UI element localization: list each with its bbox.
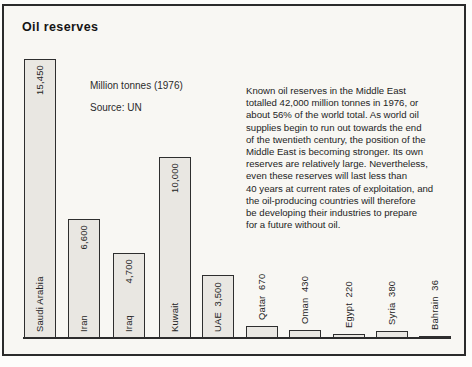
chart-title: Oil reserves bbox=[22, 20, 98, 34]
bar-value-label: 15,450 bbox=[35, 65, 45, 95]
bar-category-label: Iran bbox=[79, 315, 89, 332]
caption-line: for a future without oil. bbox=[246, 219, 433, 231]
bar-category-value-label: Bahrain 36 bbox=[430, 280, 440, 330]
caption-line: Known oil reserves in the Middle East bbox=[246, 85, 433, 97]
caption-line: supplies begin to run out towards the en… bbox=[246, 122, 433, 134]
unit-label: Million tonnes (1976) bbox=[90, 80, 183, 91]
source-label: Source: UN bbox=[90, 102, 142, 113]
caption-line: even these reserves will last less than bbox=[246, 170, 433, 182]
bar-category-value-label: Egypt 220 bbox=[344, 281, 354, 328]
bar-bahrain bbox=[419, 336, 451, 338]
bar-category-value-label: UAE 3,500 bbox=[213, 282, 223, 332]
caption-line: Middle East is becoming stronger. Its ow… bbox=[246, 146, 433, 158]
bar-category-value-label: Syria 380 bbox=[387, 281, 397, 325]
bar-category-value-label: Oman 430 bbox=[300, 276, 310, 324]
caption-line: about 56% of the world total. As world o… bbox=[246, 109, 433, 121]
bar-value-label: 4,700 bbox=[124, 259, 134, 283]
bar-qatar bbox=[246, 326, 278, 338]
caption-line: reserves are relatively large. Neverthel… bbox=[246, 158, 433, 170]
caption-line: 40 years at current rates of exploitatio… bbox=[246, 183, 433, 195]
caption-line: of the twentieth century, the position o… bbox=[246, 134, 433, 146]
bar-category-value-label: Qatar 670 bbox=[257, 274, 267, 320]
bar-egypt bbox=[333, 334, 365, 338]
bar-oman bbox=[289, 330, 321, 338]
caption-text: Known oil reserves in the Middle Easttot… bbox=[246, 85, 433, 231]
bar-syria bbox=[376, 331, 408, 338]
figure-page: Oil reserves Million tonnes (1976) Sourc… bbox=[0, 0, 472, 367]
caption-line: be developing their industries to prepar… bbox=[246, 207, 433, 219]
caption-line: totalled 42,000 million tonnes in 1976, … bbox=[246, 97, 433, 109]
bar-category-label: Iraq bbox=[124, 315, 134, 332]
bar-category-label: Kuwait bbox=[170, 303, 180, 332]
caption-line: the oil-producing countries will therefo… bbox=[246, 195, 433, 207]
bar-category-label: Saudi Arabia bbox=[35, 276, 45, 332]
bar-value-label: 10,000 bbox=[170, 163, 180, 193]
bar-value-label: 6,600 bbox=[79, 225, 89, 249]
